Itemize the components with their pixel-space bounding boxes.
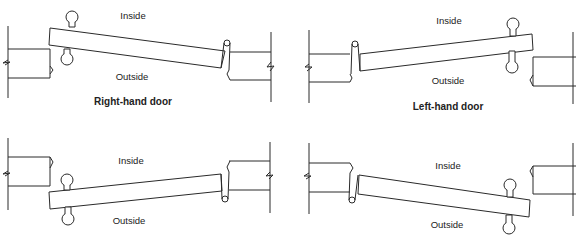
hinge-icon xyxy=(224,40,230,46)
left-jamb xyxy=(304,143,353,214)
outside-label: Outside xyxy=(431,219,464,230)
door-handing-diagram xyxy=(0,0,576,244)
outside-label: Outside xyxy=(432,75,465,86)
door-slab xyxy=(49,174,222,209)
door-slab xyxy=(49,28,225,68)
right-jamb xyxy=(530,32,576,104)
caption-left-hand-door: Left-hand door xyxy=(413,101,484,112)
right-jamb xyxy=(227,142,273,213)
left-jamb xyxy=(3,26,53,98)
door-slab xyxy=(358,175,530,217)
panel-left-hand-top xyxy=(305,18,576,104)
panel-right-hand-bottom xyxy=(3,138,273,225)
right-jamb xyxy=(530,143,576,216)
inside-label: Inside xyxy=(435,160,460,171)
left-jamb xyxy=(3,138,53,210)
panel-right-hand-top xyxy=(3,11,274,102)
hinge-icon xyxy=(349,197,355,203)
inside-label: Inside xyxy=(118,155,143,166)
outside-label: Outside xyxy=(116,71,149,82)
caption-right-hand-door: Right-hand door xyxy=(94,96,172,107)
outside-label: Outside xyxy=(113,215,146,226)
hinge-icon xyxy=(222,196,228,202)
right-jamb xyxy=(227,32,274,102)
inside-label: Inside xyxy=(120,10,145,21)
inside-label: Inside xyxy=(436,15,461,26)
left-jamb xyxy=(305,30,352,103)
hinge-icon xyxy=(352,41,358,47)
